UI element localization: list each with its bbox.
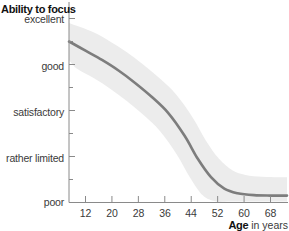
x-tick-label-28: 28 [133, 207, 145, 219]
x-axis-title: Age in years [228, 219, 288, 231]
y-tick-label-excellent: excellent [24, 13, 64, 25]
x-tick-label-44: 44 [185, 207, 197, 219]
x-tick-label-60: 60 [238, 207, 250, 219]
confidence-band [69, 23, 287, 202]
y-tick-label-satisfactory: satisfactory [13, 106, 65, 118]
x-axis-title-bold: Age [228, 219, 248, 231]
focus-age-chart: Ability to focus excellent good satisfac… [0, 0, 289, 231]
x-axis-title-rest: in years [248, 219, 288, 231]
y-tick-label-poor: poor [44, 196, 65, 208]
x-tick-label-68: 68 [265, 207, 277, 219]
x-tick-label-52: 52 [212, 207, 224, 219]
x-tick-label-12: 12 [80, 207, 92, 219]
x-tick-label-20: 20 [106, 207, 118, 219]
y-tick-label-rather-limited: rather limited [6, 152, 64, 164]
y-tick-label-good: good [41, 60, 64, 72]
x-tick-label-36: 36 [159, 207, 171, 219]
